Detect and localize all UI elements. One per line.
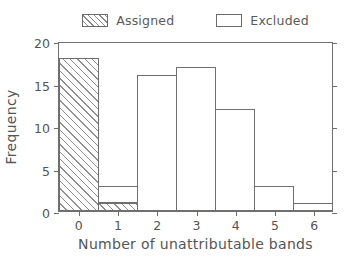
- bar-segment-excluded: [98, 186, 138, 203]
- histogram-figure: Assigned Excluded 05101520 0123456 Frequ…: [0, 0, 346, 262]
- bar-slot: [254, 43, 293, 211]
- bar-slot: [293, 43, 332, 211]
- y-tick-right: [332, 43, 337, 44]
- bar-segment-assigned: [59, 58, 99, 211]
- x-tick-label: 6: [310, 218, 318, 233]
- hatched-box-icon: [82, 14, 108, 27]
- y-tick-right: [332, 86, 337, 87]
- bar-slot: [176, 43, 215, 211]
- x-tick: [275, 211, 276, 216]
- x-tick-label: 3: [193, 218, 201, 233]
- bar-segment-assigned: [98, 203, 138, 212]
- bar-segment-excluded: [215, 109, 255, 211]
- y-tick-label: 15: [34, 78, 50, 93]
- y-tick-right: [332, 128, 337, 129]
- x-tick-label: 2: [153, 218, 161, 233]
- bar-segment-excluded: [176, 67, 216, 212]
- x-tick: [314, 211, 315, 216]
- y-tick: [54, 213, 59, 214]
- chart-legend: Assigned Excluded: [58, 8, 333, 32]
- legend-label-excluded: Excluded: [250, 13, 309, 28]
- bar-segment-excluded: [137, 75, 177, 211]
- x-tick-label: 4: [232, 218, 240, 233]
- legend-item-excluded: Excluded: [216, 13, 309, 28]
- bar-segment-excluded: [254, 186, 294, 212]
- x-tick-label: 5: [271, 218, 279, 233]
- legend-label-assigned: Assigned: [116, 13, 174, 28]
- bar-slot: [59, 43, 98, 211]
- x-tick: [79, 211, 80, 216]
- y-tick-label: 10: [34, 121, 50, 136]
- y-tick: [54, 86, 59, 87]
- x-tick: [118, 211, 119, 216]
- plot-area: 05101520 0123456: [58, 42, 333, 212]
- bar-group: [59, 43, 332, 211]
- bar-slot: [137, 43, 176, 211]
- y-tick: [54, 171, 59, 172]
- y-tick-label: 0: [42, 206, 50, 221]
- y-tick-label: 20: [34, 36, 50, 51]
- x-tick-label: 1: [114, 218, 122, 233]
- y-tick-right: [332, 213, 337, 214]
- y-tick-label: 5: [42, 163, 50, 178]
- y-tick-right: [332, 171, 337, 172]
- y-tick: [54, 43, 59, 44]
- x-axis-title: Number of unattributable bands: [58, 236, 333, 252]
- x-tick: [157, 211, 158, 216]
- y-axis-title: Frequency: [2, 42, 20, 212]
- bar-slot: [215, 43, 254, 211]
- bar-segment-excluded: [293, 203, 333, 212]
- x-tick-label: 0: [75, 218, 83, 233]
- x-tick: [197, 211, 198, 216]
- bar-slot: [98, 43, 137, 211]
- empty-box-icon: [216, 14, 242, 27]
- y-tick: [54, 128, 59, 129]
- legend-item-assigned: Assigned: [82, 13, 174, 28]
- x-tick: [236, 211, 237, 216]
